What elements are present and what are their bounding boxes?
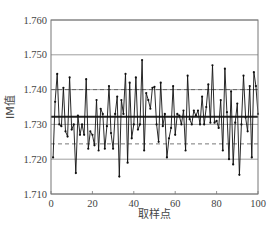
data-point <box>131 137 133 139</box>
data-point <box>226 111 228 113</box>
data-point <box>98 149 100 151</box>
data-point <box>189 118 191 120</box>
data-point <box>89 130 91 132</box>
y-tick-label: 1.720 <box>23 154 47 165</box>
y-tick-label: 1.750 <box>23 49 47 60</box>
y-axis-tick-labels: 1.7101.7201.7301.7401.7501.760 <box>23 15 47 200</box>
y-tick-label: 1.730 <box>23 119 47 130</box>
data-point <box>240 123 242 125</box>
data-point <box>71 129 73 131</box>
data-point <box>224 68 226 70</box>
data-point <box>75 172 77 174</box>
x-tick-label: 100 <box>250 198 266 209</box>
data-point <box>218 127 220 129</box>
data-point <box>139 123 141 125</box>
data-point <box>91 134 93 136</box>
data-point <box>137 129 139 131</box>
data-point <box>160 82 162 84</box>
data-point <box>141 59 143 61</box>
data-point <box>251 156 253 158</box>
data-point <box>201 95 203 97</box>
data-point <box>149 108 151 110</box>
data-point <box>176 113 178 115</box>
data-point <box>126 162 128 164</box>
data-point <box>52 156 54 158</box>
data-point <box>64 130 66 132</box>
data-point <box>145 92 147 94</box>
x-tick-label: 20 <box>87 198 98 209</box>
data-point <box>147 99 149 101</box>
data-point <box>108 85 110 87</box>
data-point <box>211 64 213 66</box>
data-point <box>180 123 182 125</box>
data-point <box>203 123 205 125</box>
data-point <box>191 123 193 125</box>
data-point <box>155 123 157 125</box>
data-point <box>213 122 215 124</box>
x-tick-label: 80 <box>211 198 222 209</box>
data-point <box>77 115 79 117</box>
data-point <box>118 176 120 178</box>
y-axis-label: IM值 <box>4 95 17 119</box>
data-point <box>114 113 116 115</box>
data-point <box>232 163 234 165</box>
data-point <box>209 122 211 124</box>
data-point <box>193 109 195 111</box>
data-point <box>69 76 71 78</box>
x-axis-label: 取样点 <box>138 207 171 221</box>
data-point <box>120 99 122 101</box>
data-point <box>81 123 83 125</box>
data-point <box>151 87 153 89</box>
data-point <box>116 95 118 97</box>
data-point <box>60 125 62 127</box>
data-point <box>255 85 257 87</box>
data-point <box>54 101 56 103</box>
x-tick-label: 60 <box>170 198 181 209</box>
data-point <box>172 85 174 87</box>
data-point <box>184 149 186 151</box>
data-point <box>162 125 164 127</box>
data-point <box>174 134 176 136</box>
data-point <box>205 106 207 108</box>
data-point <box>234 122 236 124</box>
data-point <box>182 109 184 111</box>
x-tick-label: 0 <box>48 198 53 209</box>
data-point <box>95 99 97 101</box>
data-point <box>79 134 81 136</box>
data-point <box>143 149 145 151</box>
data-point <box>87 148 89 150</box>
data-point <box>247 130 249 132</box>
y-tick-label: 1.740 <box>23 84 47 95</box>
data-point <box>58 123 60 125</box>
data-point <box>85 78 87 80</box>
data-point <box>133 123 135 125</box>
data-point <box>207 83 209 85</box>
data-point <box>104 148 106 150</box>
data-point <box>56 73 58 75</box>
data-point <box>124 73 126 75</box>
data-point <box>110 132 112 134</box>
data-point <box>102 113 104 115</box>
data-point <box>197 109 199 111</box>
data-point <box>122 113 124 115</box>
data-point <box>164 113 166 115</box>
data-series <box>52 59 259 178</box>
data-point <box>199 123 201 125</box>
data-point <box>187 75 189 77</box>
data-point <box>112 148 114 150</box>
data-point <box>106 125 108 127</box>
data-point <box>62 87 64 89</box>
data-point <box>244 116 246 118</box>
y-tick-label: 1.760 <box>23 15 47 26</box>
data-point <box>253 71 255 73</box>
data-point <box>66 135 68 137</box>
data-point <box>195 115 197 117</box>
data-point <box>153 86 155 88</box>
data-point <box>238 174 240 176</box>
data-point <box>158 141 160 143</box>
data-point <box>129 82 131 84</box>
data-point <box>249 85 251 87</box>
data-point <box>242 75 244 77</box>
data-point <box>135 76 137 78</box>
data-point <box>93 144 95 146</box>
